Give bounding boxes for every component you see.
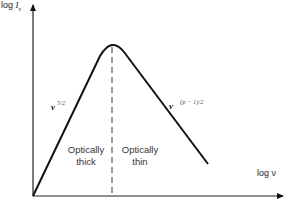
- spectrum-curve: [33, 45, 208, 196]
- optically-thick-line2: thick: [64, 156, 108, 168]
- right-slope-base: ν: [169, 101, 173, 111]
- right-slope-label: ν(p − 1)/2: [169, 97, 204, 111]
- x-axis-label: log ν: [257, 168, 276, 178]
- left-slope-exp: 5/2: [57, 99, 65, 106]
- optically-thin-label: Optically thin: [118, 144, 162, 168]
- left-slope-label: ν5/2: [51, 98, 65, 112]
- spectrum-plot: [0, 0, 295, 203]
- optically-thin-line1: Optically: [118, 144, 162, 156]
- left-slope-base: ν: [51, 102, 55, 112]
- y-axis-label-sub: ν: [19, 6, 22, 12]
- right-slope-exp: (p − 1)/2: [180, 98, 204, 105]
- x-axis-label-text: log ν: [257, 168, 276, 178]
- optically-thin-line2: thin: [118, 156, 162, 168]
- y-axis-label-prefix: log: [1, 0, 16, 10]
- y-axis-label: log Iν: [1, 0, 21, 14]
- optically-thick-line1: Optically: [64, 144, 108, 156]
- optically-thick-label: Optically thick: [64, 144, 108, 168]
